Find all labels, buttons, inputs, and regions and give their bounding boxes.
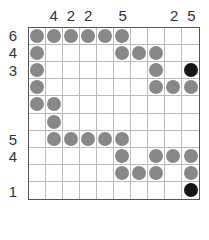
grid-cell[interactable] <box>63 131 80 148</box>
grid-cell[interactable] <box>29 62 46 79</box>
grid-cell[interactable] <box>131 79 148 96</box>
grid-cell[interactable] <box>131 96 148 113</box>
grid-cell[interactable] <box>80 165 97 182</box>
grid-cell[interactable] <box>29 114 46 131</box>
grid-cell[interactable] <box>80 114 97 131</box>
grid-cell[interactable] <box>114 28 131 45</box>
grid-cell[interactable] <box>80 148 97 165</box>
grid-cell[interactable] <box>80 131 97 148</box>
grid-cell[interactable] <box>131 165 148 182</box>
grid-cell[interactable] <box>114 131 131 148</box>
grid-cell[interactable] <box>29 182 46 199</box>
grid-cell[interactable] <box>46 148 63 165</box>
grid-cell[interactable] <box>148 96 165 113</box>
grid-cell[interactable] <box>182 182 199 199</box>
grid-cell[interactable] <box>97 165 114 182</box>
grid-cell[interactable] <box>131 28 148 45</box>
grid-cell[interactable] <box>63 182 80 199</box>
grid-cell[interactable] <box>165 62 182 79</box>
grid-cell[interactable] <box>182 114 199 131</box>
grid-cell[interactable] <box>63 148 80 165</box>
grid-cell[interactable] <box>29 45 46 62</box>
grid-cell[interactable] <box>97 62 114 79</box>
grid-cell[interactable] <box>182 28 199 45</box>
grid-cell[interactable] <box>114 45 131 62</box>
grid-cell[interactable] <box>29 79 46 96</box>
grid-cell[interactable] <box>165 114 182 131</box>
grid-cell[interactable] <box>63 62 80 79</box>
grid-cell[interactable] <box>148 45 165 62</box>
grid-cell[interactable] <box>97 28 114 45</box>
grid-cell[interactable] <box>165 79 182 96</box>
grid-cell[interactable] <box>114 96 131 113</box>
grid-cell[interactable] <box>165 148 182 165</box>
grid-cell[interactable] <box>182 165 199 182</box>
grid-cell[interactable] <box>63 96 80 113</box>
grid-cell[interactable] <box>46 79 63 96</box>
grid-cell[interactable] <box>165 131 182 148</box>
grid-cell[interactable] <box>46 28 63 45</box>
grid-cell[interactable] <box>148 28 165 45</box>
grid-cell[interactable] <box>182 45 199 62</box>
grid-cell[interactable] <box>182 148 199 165</box>
grid-cell[interactable] <box>165 182 182 199</box>
grid-cell[interactable] <box>46 114 63 131</box>
grid-cell[interactable] <box>46 96 63 113</box>
grid-cell[interactable] <box>114 62 131 79</box>
grid-cell[interactable] <box>46 62 63 79</box>
grid-cell[interactable] <box>97 79 114 96</box>
grid-cell[interactable] <box>80 45 97 62</box>
grid-cell[interactable] <box>131 148 148 165</box>
grid-cell[interactable] <box>165 45 182 62</box>
grid-cell[interactable] <box>29 148 46 165</box>
grid-cell[interactable] <box>63 45 80 62</box>
grid-cell[interactable] <box>182 131 199 148</box>
grid-cell[interactable] <box>97 148 114 165</box>
grid-cell[interactable] <box>131 182 148 199</box>
grid-cell[interactable] <box>97 131 114 148</box>
grid-cell[interactable] <box>165 165 182 182</box>
grid-cell[interactable] <box>80 182 97 199</box>
grid-cell[interactable] <box>182 96 199 113</box>
grid-cell[interactable] <box>165 96 182 113</box>
grid-cell[interactable] <box>114 148 131 165</box>
grid-cell[interactable] <box>80 96 97 113</box>
grid-cell[interactable] <box>63 28 80 45</box>
grid-cell[interactable] <box>114 114 131 131</box>
grid-cell[interactable] <box>148 79 165 96</box>
grid-cell[interactable] <box>29 28 46 45</box>
grid-cell[interactable] <box>182 79 199 96</box>
grid-cell[interactable] <box>80 28 97 45</box>
grid-cell[interactable] <box>63 165 80 182</box>
grid-cell[interactable] <box>97 45 114 62</box>
grid-cell[interactable] <box>114 182 131 199</box>
grid-cell[interactable] <box>131 131 148 148</box>
grid-cell[interactable] <box>29 96 46 113</box>
grid-cell[interactable] <box>148 114 165 131</box>
grid-cell[interactable] <box>46 45 63 62</box>
grid-cell[interactable] <box>131 62 148 79</box>
grid-cell[interactable] <box>80 62 97 79</box>
grid-cell[interactable] <box>46 131 63 148</box>
grid-cell[interactable] <box>63 79 80 96</box>
grid-cell[interactable] <box>97 182 114 199</box>
grid-cell[interactable] <box>80 79 97 96</box>
grid-cell[interactable] <box>29 165 46 182</box>
grid-cell[interactable] <box>148 148 165 165</box>
grid-cell[interactable] <box>46 165 63 182</box>
grid-cell[interactable] <box>131 45 148 62</box>
grid-cell[interactable] <box>63 114 80 131</box>
grid-cell[interactable] <box>114 79 131 96</box>
grid-cell[interactable] <box>148 182 165 199</box>
grid-cell[interactable] <box>148 165 165 182</box>
grid-cell[interactable] <box>148 62 165 79</box>
grid-cell[interactable] <box>114 165 131 182</box>
grid-cell[interactable] <box>29 131 46 148</box>
grid-cell[interactable] <box>46 182 63 199</box>
grid-cell[interactable] <box>182 62 199 79</box>
grid-cell[interactable] <box>97 114 114 131</box>
grid-cell[interactable] <box>148 131 165 148</box>
grid-cell[interactable] <box>165 28 182 45</box>
grid-cell[interactable] <box>131 114 148 131</box>
grid-cell[interactable] <box>97 96 114 113</box>
